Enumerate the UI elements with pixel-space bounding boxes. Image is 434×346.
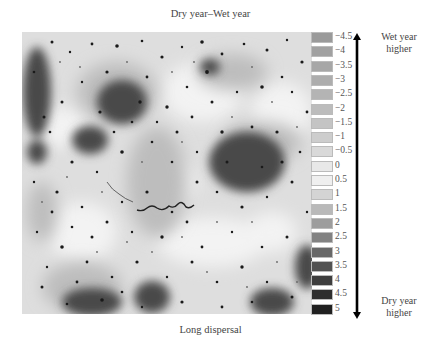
legend-swatch xyxy=(311,118,333,129)
legend-label: 0 xyxy=(335,160,340,170)
legend-label: 3 xyxy=(335,246,340,256)
legend-label: −3.5 xyxy=(335,60,352,70)
legend-swatch xyxy=(311,46,333,57)
legend-swatch xyxy=(311,247,333,258)
legend-item: 3.5 xyxy=(311,261,371,272)
legend-swatch xyxy=(311,161,333,172)
legend-swatch xyxy=(311,132,333,143)
legend-label: 2 xyxy=(335,217,340,227)
legend-label: 1 xyxy=(335,188,340,198)
legend-item: −3 xyxy=(311,75,371,86)
double-arrow-icon xyxy=(353,33,361,319)
legend-item: 0.5 xyxy=(311,175,371,186)
dry-year-higher-label: Dry year higher xyxy=(368,295,430,319)
label-line: higher xyxy=(368,307,430,319)
legend-item: −4.5 xyxy=(311,32,371,43)
legend-swatch xyxy=(311,104,333,115)
legend-item: −2.5 xyxy=(311,89,371,100)
legend-item: 2 xyxy=(311,218,371,229)
legend-item: 3 xyxy=(311,247,371,258)
figure-title: Dry year–Wet year xyxy=(123,8,298,19)
legend-swatch xyxy=(311,275,333,286)
legend-label: −4 xyxy=(335,45,345,55)
legend-label: 2.5 xyxy=(335,231,347,241)
legend-item: −2 xyxy=(311,104,371,115)
legend-item: −4 xyxy=(311,46,371,57)
legend-label: 0.5 xyxy=(335,174,347,184)
legend-swatch xyxy=(311,175,333,186)
legend-item: −1 xyxy=(311,132,371,143)
legend-item: 0 xyxy=(311,161,371,172)
legend-label: −4.5 xyxy=(335,31,352,41)
legend-item: 4 xyxy=(311,275,371,286)
legend-item: 1 xyxy=(311,189,371,200)
legend-label: 1.5 xyxy=(335,203,347,213)
legend-label: 3.5 xyxy=(335,260,347,270)
legend-swatch xyxy=(311,146,333,157)
legend-item: 2.5 xyxy=(311,232,371,243)
legend-label: −3 xyxy=(335,74,345,84)
legend-swatch xyxy=(311,218,333,229)
legend-swatch xyxy=(311,304,333,315)
legend-swatch xyxy=(311,261,333,272)
legend-swatch xyxy=(311,189,333,200)
legend-label: −1 xyxy=(335,131,345,141)
legend-item: 5 xyxy=(311,304,371,315)
legend-item: −0.5 xyxy=(311,146,371,157)
legend-swatch xyxy=(311,89,333,100)
legend-swatch xyxy=(311,75,333,86)
legend-swatch xyxy=(311,204,333,215)
legend-item: −3.5 xyxy=(311,61,371,72)
legend-label: −1.5 xyxy=(335,117,352,127)
legend-label: −2 xyxy=(335,103,345,113)
legend-label: −2.5 xyxy=(335,88,352,98)
label-line: Wet year xyxy=(368,31,430,43)
legend-swatch xyxy=(311,232,333,243)
label-line: Dry year xyxy=(368,295,430,307)
difference-map xyxy=(22,32,312,314)
legend-label: 5 xyxy=(335,303,340,313)
legend-label: 4 xyxy=(335,274,340,284)
legend-item: −1.5 xyxy=(311,118,371,129)
label-line: higher xyxy=(368,43,430,55)
legend-swatch xyxy=(311,289,333,300)
legend-label: 4.5 xyxy=(335,288,347,298)
legend-item: 4.5 xyxy=(311,289,371,300)
legend-swatch xyxy=(311,61,333,72)
map-image xyxy=(22,32,312,314)
figure-subtitle: Long dispersal xyxy=(123,324,298,335)
legend-label: −0.5 xyxy=(335,145,352,155)
legend-item: 1.5 xyxy=(311,204,371,215)
wet-year-higher-label: Wet year higher xyxy=(368,31,430,55)
legend-swatch xyxy=(311,32,333,43)
